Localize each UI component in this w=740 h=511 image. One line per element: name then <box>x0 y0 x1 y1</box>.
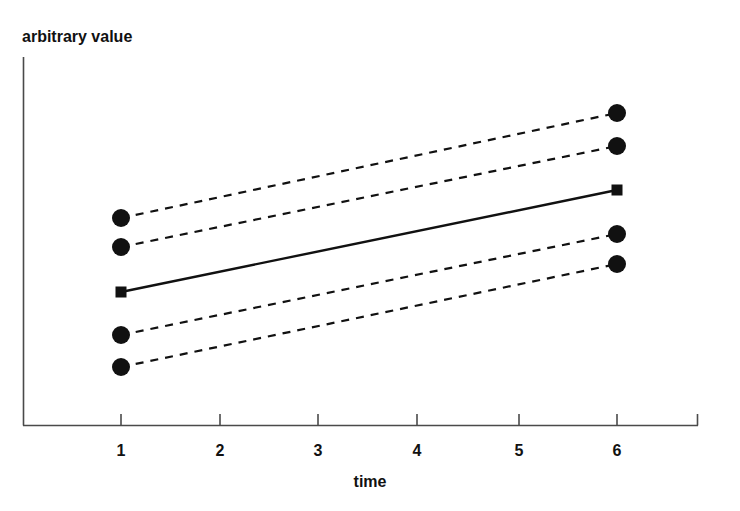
x-tick-label-5: 5 <box>515 442 524 459</box>
marker-circle-lower-inner-1 <box>608 225 626 243</box>
x-tick-label-6: 6 <box>613 442 622 459</box>
x-tick-label-4: 4 <box>413 442 422 459</box>
x-tick-label-3: 3 <box>314 442 323 459</box>
marker-circle-lower-outer-0 <box>112 358 130 376</box>
marker-circle-upper-outer-0 <box>112 209 130 227</box>
marker-square-mean-0 <box>116 287 127 298</box>
marker-circle-upper-outer-1 <box>608 104 626 122</box>
marker-circle-upper-inner-1 <box>608 137 626 155</box>
x-tick-label-1: 1 <box>117 442 126 459</box>
marker-circle-lower-outer-1 <box>608 255 626 273</box>
marker-circle-lower-inner-0 <box>112 326 130 344</box>
chart-background <box>0 0 740 511</box>
x-tick-label-2: 2 <box>216 442 225 459</box>
marker-square-mean-1 <box>612 185 623 196</box>
chart-canvas: arbitrary value 1 2 3 4 5 6 time <box>0 0 740 511</box>
y-axis-label: arbitrary value <box>22 28 132 45</box>
chart-figure: arbitrary value 1 2 3 4 5 6 time <box>0 0 740 511</box>
x-axis-label: time <box>354 473 387 490</box>
marker-circle-upper-inner-0 <box>112 238 130 256</box>
